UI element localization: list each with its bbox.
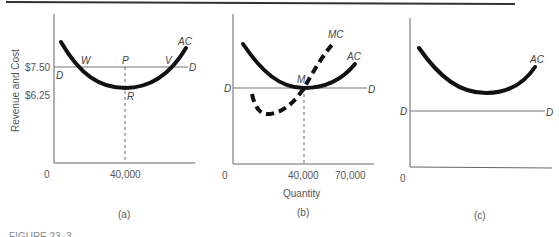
origin-c: 0 xyxy=(400,173,406,184)
x-axis-label: Quantity xyxy=(283,188,320,199)
panel-label-c: (c) xyxy=(474,210,486,221)
origin-a: 0 xyxy=(44,169,50,180)
figure-caption: FIGURE 23–3 xyxy=(9,231,72,237)
demand-label-right-c: D xyxy=(546,107,553,118)
point-r: R xyxy=(127,91,134,102)
origin-b: 0 xyxy=(222,170,228,181)
x-tick-40000-a: 40,000 xyxy=(110,169,141,180)
figure-canvas: Revenue and Cost $7.50 $6.25 D D AC W P … xyxy=(0,0,559,237)
x-axis-c xyxy=(410,167,552,168)
point-w: W xyxy=(81,55,92,66)
demand-label-left-a: D xyxy=(56,70,63,81)
mc-curve-b xyxy=(252,42,335,114)
panel-a: Revenue and Cost $7.50 $6.25 D D AC W P … xyxy=(10,14,196,220)
y-axis-label: Revenue and Cost xyxy=(10,49,21,132)
x-tick-70000-b: 70,000 xyxy=(335,170,366,181)
y-tick-625: $6.25 xyxy=(25,90,50,101)
y-tick-750: $7.50 xyxy=(25,62,50,73)
x-tick-40000-b: 40,000 xyxy=(288,170,319,181)
demand-label-right-b: D xyxy=(368,84,375,95)
demand-label-left-c: D xyxy=(400,106,407,117)
demand-label-left-b: D xyxy=(224,83,231,94)
ac-label-b: AC xyxy=(346,51,362,62)
point-p: P xyxy=(122,55,129,66)
panel-b: D D M MC AC 0 40,000 70,000 Quantity (b) xyxy=(222,14,375,218)
top-rule xyxy=(6,2,515,4)
point-m-dot xyxy=(301,87,306,92)
panel-c: D D AC 0 (c) xyxy=(400,18,553,221)
ac-label-a: AC xyxy=(177,36,193,47)
ac-label-c: AC xyxy=(529,54,545,65)
panel-label-b: (b) xyxy=(297,207,309,218)
point-m: M xyxy=(297,74,306,85)
panel-label-a: (a) xyxy=(118,209,130,220)
demand-label-right-a: D xyxy=(189,62,196,73)
ac-curve-c xyxy=(419,48,535,93)
mc-label-b: MC xyxy=(328,29,344,40)
